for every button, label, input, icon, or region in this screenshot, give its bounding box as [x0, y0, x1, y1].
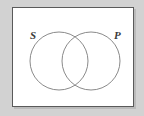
venn-circles-graphic — [13, 8, 133, 106]
subject-circle — [30, 32, 88, 90]
venn-diagram-figure: S P — [0, 0, 144, 116]
predicate-circle-label: P — [114, 30, 121, 41]
subject-circle-label: S — [30, 30, 36, 41]
predicate-circle — [62, 32, 120, 90]
venn-diagram-panel: S P — [12, 7, 134, 107]
